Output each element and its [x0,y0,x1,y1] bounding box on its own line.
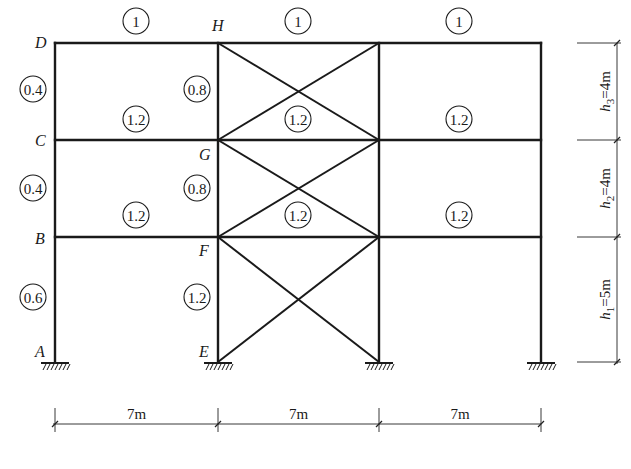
beam-stiffness-badge: 1 [446,8,472,34]
svg-text:0.6: 0.6 [24,290,43,306]
beam-stiffness-badge: 1.2 [123,202,149,228]
svg-text:1.2: 1.2 [188,290,207,306]
bay-width-label: 7m [289,406,309,422]
svg-text:0.8: 0.8 [188,181,207,197]
svg-text:1.2: 1.2 [127,112,146,128]
column-stiffness-badge: 0.8 [184,175,210,201]
bay-width-label: 7m [127,406,147,422]
beam-stiffness-badge: 1.2 [285,202,311,228]
fixed-support-icon [204,363,233,370]
fixed-supports [41,363,556,370]
column-stiffness-badge: 0.4 [20,76,46,102]
storey-height-label: h3=4m [597,71,616,112]
beam-stiffness-badge: 1 [285,8,311,34]
node-label-e: E [198,343,209,360]
bay-width-label: 7m [450,406,470,422]
stiffness-badges: 1111.21.21.21.21.21.20.40.80.40.80.61.2 [20,8,472,310]
beam-stiffness-badge: 1.2 [285,106,311,132]
svg-text:1: 1 [294,14,302,30]
svg-text:1: 1 [132,14,140,30]
svg-text:1.2: 1.2 [289,208,308,224]
column-stiffness-badge: 0.8 [184,76,210,102]
column-stiffness-badge: 0.4 [20,175,46,201]
fixed-support-icon [365,363,394,370]
svg-text:1.2: 1.2 [289,112,308,128]
node-label-h: H [211,17,225,34]
beam-stiffness-badge: 1.2 [446,106,472,132]
svg-text:0.4: 0.4 [24,82,43,98]
storey-height-label: h2=4m [597,168,616,209]
frame-diagram: 7m7m7mh3=4mh2=4mh1=5m 1111.21.21.21.21.2… [0,0,631,469]
svg-text:0.8: 0.8 [188,82,207,98]
beam-stiffness-badge: 1.2 [123,106,149,132]
svg-text:0.4: 0.4 [24,181,43,197]
node-label-b: B [35,230,45,247]
storey-height-label: h1=5m [597,279,616,320]
node-label-c: C [35,132,46,149]
node-label-f: F [198,242,209,259]
beam-stiffness-badge: 1 [123,8,149,34]
node-label-d: D [34,34,47,51]
fixed-support-icon [41,363,70,370]
svg-text:1: 1 [455,14,463,30]
beam-stiffness-badge: 1.2 [446,202,472,228]
column-stiffness-badge: 1.2 [184,284,210,310]
fixed-support-icon [527,363,556,370]
node-label-a: A [34,343,45,360]
svg-text:1.2: 1.2 [450,208,469,224]
column-stiffness-badge: 0.6 [20,284,46,310]
svg-text:1.2: 1.2 [127,208,146,224]
svg-text:1.2: 1.2 [450,112,469,128]
node-label-g: G [199,146,211,163]
